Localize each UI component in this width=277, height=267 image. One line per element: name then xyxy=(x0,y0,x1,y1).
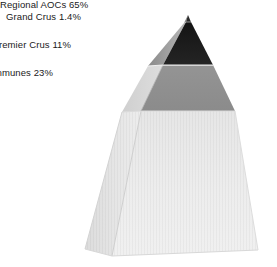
segment-regional-aocs xyxy=(85,111,258,256)
label-grand-crus: Grand Crus 1.4% xyxy=(6,12,81,22)
segment-communes xyxy=(122,65,235,112)
segment-grand-crus xyxy=(184,15,191,23)
pyramid-chart-figure: Grand Crus 1.4% Premier Crus 11% Commune… xyxy=(0,0,277,267)
label-communes: Communes 23% xyxy=(0,68,53,78)
segment-premier-crus xyxy=(148,22,213,66)
label-premier-crus: Premier Crus 11% xyxy=(0,40,71,50)
label-regional-aocs: Regional AOCs 65% xyxy=(0,0,88,10)
